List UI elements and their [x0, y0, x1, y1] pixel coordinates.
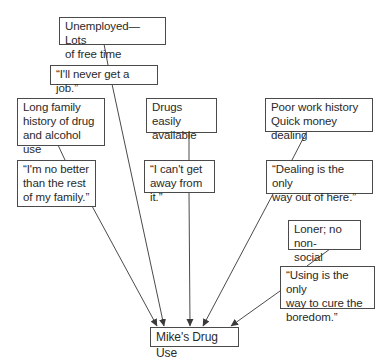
thought-box-no-better: “I'm no better than the rest of my famil… — [17, 160, 96, 207]
thought-box-cant-get-away: “I can't get away from it.” — [144, 160, 215, 193]
thought-box-using-only-way: “Using is the only way to cure the bored… — [280, 266, 375, 309]
connector-family-to-thought — [58, 145, 65, 160]
factor-box-loner: Loner; no non- social support — [288, 220, 361, 250]
factor-box-family-history: Long family history of drug and alcohol … — [17, 98, 105, 146]
thought-box-dealing-only-way: “Dealing is the only way out of here.” — [266, 160, 373, 194]
factor-box-drugs-available: Drugs easily available — [146, 98, 217, 133]
arrow-dealing-thought-to-outcome — [203, 194, 273, 326]
thought-box-never-get-job: “I'll never get a job.” — [50, 65, 158, 85]
arrow-using-thought-to-outcome — [231, 291, 280, 326]
factor-box-unemployed: Unemployed—Lots of free time — [59, 17, 166, 45]
factor-box-poor-work-history: Poor work history Quick money dealing — [265, 98, 373, 132]
diagram-canvas: Unemployed—Lots of free time “I'll never… — [0, 0, 390, 362]
outcome-box-mikes-drug-use: Mike's Drug Use — [150, 327, 239, 347]
arrow-family-thought-to-outcome — [92, 206, 157, 326]
arrow-drugs-thought-to-outcome — [189, 192, 190, 326]
